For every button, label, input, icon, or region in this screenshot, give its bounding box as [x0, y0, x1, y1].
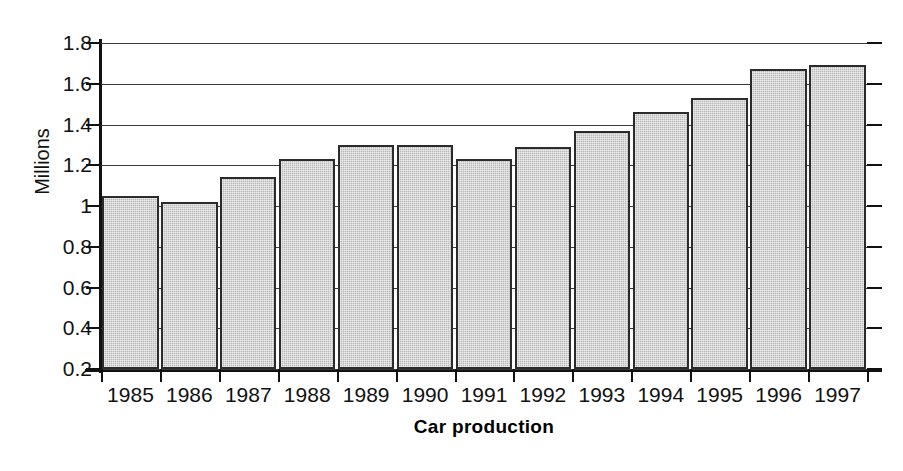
bar [633, 112, 689, 369]
x-tick-label: 1988 [278, 383, 337, 407]
x-tick-mark [631, 369, 633, 382]
y-tick-mark-right [867, 164, 882, 166]
x-tick-mark [749, 369, 751, 382]
bar [102, 196, 158, 369]
chart-canvas: Millions 1.81.61.41.210.80.60.40.2 19851… [0, 0, 903, 471]
x-tick-label: 1996 [749, 383, 808, 407]
y-tick-label: 0.8 [34, 236, 92, 257]
x-tick-mark [160, 369, 162, 382]
x-tick-mark [101, 369, 103, 382]
y-axis-tick-labels: 1.81.61.41.210.80.60.40.2 [30, 0, 92, 471]
x-tick-mark [808, 369, 810, 382]
x-tick-label: 1992 [513, 383, 572, 407]
x-tick-mark [396, 369, 398, 382]
bar [338, 145, 394, 369]
y-tick-label: 1.2 [34, 154, 92, 175]
x-tick-label: 1995 [690, 383, 749, 407]
x-tick-mark [690, 369, 692, 382]
bar [750, 69, 806, 369]
y-tick-mark-right [867, 287, 882, 289]
x-tick-label: 1985 [101, 383, 160, 407]
y-tick-label: 1 [34, 195, 92, 216]
y-tick-mark [86, 246, 101, 248]
y-tick-mark [86, 42, 101, 44]
bar [161, 202, 217, 369]
x-tick-mark [337, 369, 339, 382]
x-tick-mark [867, 369, 869, 382]
bar [515, 147, 571, 369]
y-tick-label: 0.2 [34, 358, 92, 379]
y-tick-label: 0.4 [34, 317, 92, 338]
y-tick-mark-right [867, 42, 882, 44]
x-tick-mark [513, 369, 515, 382]
y-tick-mark-right [867, 205, 882, 207]
y-tick-mark [86, 368, 101, 370]
y-tick-mark [86, 83, 101, 85]
bar [574, 131, 630, 369]
y-tick-mark [86, 205, 101, 207]
x-tick-label: 1989 [337, 383, 396, 407]
x-tick-label: 1994 [631, 383, 690, 407]
x-tick-mark [455, 369, 457, 382]
y-tick-mark-right [867, 368, 882, 370]
x-tick-label: 1993 [572, 383, 631, 407]
bar [220, 177, 276, 369]
y-tick-mark-right [867, 124, 882, 126]
bar [809, 65, 865, 369]
y-tick-label: 0.6 [34, 277, 92, 298]
y-tick-mark [86, 124, 101, 126]
bar [691, 98, 747, 369]
x-tick-label: 1990 [396, 383, 455, 407]
plot-area [101, 43, 867, 369]
y-tick-mark-right [867, 83, 882, 85]
y-tick-mark [86, 164, 101, 166]
y-tick-mark [86, 287, 101, 289]
bar-series [101, 43, 867, 369]
y-tick-label: 1.8 [34, 32, 92, 53]
x-axis-title: Car production [101, 416, 867, 438]
x-axis-tick-labels: 1985198619871988198919901991199219931994… [101, 383, 867, 409]
bar [456, 159, 512, 369]
x-tick-label: 1991 [455, 383, 514, 407]
x-tick-mark [219, 369, 221, 382]
bar [397, 145, 453, 369]
x-tick-mark [572, 369, 574, 382]
x-tick-label: 1986 [160, 383, 219, 407]
x-tick-label: 1997 [808, 383, 867, 407]
x-tick-mark [278, 369, 280, 382]
y-tick-label: 1.4 [34, 114, 92, 135]
gridline [101, 369, 867, 370]
bar [279, 159, 335, 369]
y-tick-label: 1.6 [34, 73, 92, 94]
y-tick-mark-right [867, 327, 882, 329]
y-tick-mark [86, 327, 101, 329]
x-tick-label: 1987 [219, 383, 278, 407]
y-tick-mark-right [867, 246, 882, 248]
